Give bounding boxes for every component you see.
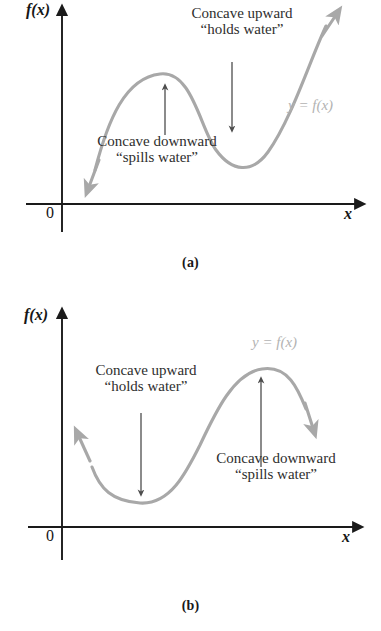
annotation-line2: “holds water” (66, 379, 226, 395)
curve-b-right-arrow (305, 403, 312, 425)
x-axis-label-b: x (342, 529, 350, 546)
annotation-concave-upward-a: Concave upward “holds water” (152, 6, 332, 38)
annotation-line2: “spills water” (52, 150, 262, 166)
y-axis-label-a: f(x) (26, 2, 50, 19)
figure-root: f(x) x 0 y = f(x) Concave upward “holds … (0, 0, 381, 631)
annotation-line1: Concave downward (216, 450, 336, 466)
origin-label-b: 0 (46, 528, 54, 545)
panel-caption-a: (a) (0, 255, 381, 271)
annotation-line2: “spills water” (178, 467, 374, 483)
y-axis-label-b: f(x) (24, 307, 48, 324)
curve-equation-label-b: y = f(x) (252, 335, 297, 351)
curve-equation-label-a: y = f(x) (288, 98, 333, 114)
annotation-concave-downward-a: Concave downward “spills water” (52, 134, 262, 166)
annotation-line2: “holds water” (152, 22, 332, 38)
x-axis-label-a: x (344, 206, 352, 223)
panel-caption-b: (b) (0, 598, 381, 614)
panel-b: f(x) x 0 y = f(x) Concave upward “holds … (0, 285, 381, 631)
annotation-line1: Concave upward (191, 5, 292, 21)
curve-b-left-arrow (80, 439, 90, 461)
annotation-line1: Concave downward (97, 133, 217, 149)
annotation-line1: Concave upward (95, 362, 196, 378)
panel-a: f(x) x 0 y = f(x) Concave upward “holds … (0, 0, 381, 285)
annotation-concave-downward-b: Concave downward “spills water” (178, 451, 374, 483)
origin-label-a: 0 (46, 205, 54, 222)
annotation-concave-upward-b: Concave upward “holds water” (66, 363, 226, 395)
